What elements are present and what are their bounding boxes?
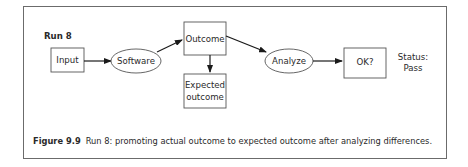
analyze-label: Analyze bbox=[272, 56, 306, 66]
run-label: Run 8 bbox=[44, 31, 72, 41]
arrow-software-to-outcome bbox=[157, 40, 182, 52]
input-label: Input bbox=[56, 55, 79, 65]
outcome-label: Outcome bbox=[185, 34, 224, 44]
expected-label-line1: Expected bbox=[185, 80, 225, 90]
figure-caption: Figure 9.9Run 8: promoting actual outcom… bbox=[33, 136, 432, 146]
arrow-outcome-to-analyze bbox=[226, 36, 266, 52]
figure-number: Figure 9.9 bbox=[33, 136, 81, 146]
expected-label-line2: outcome bbox=[186, 92, 224, 102]
ok-label: OK? bbox=[357, 57, 374, 67]
figure-caption-text: Run 8: promoting actual outcome to expec… bbox=[86, 136, 432, 146]
diagram: Run 8 Input Software Outcome Expected ou… bbox=[0, 0, 468, 167]
software-label: Software bbox=[117, 56, 155, 66]
status-label: Status: bbox=[398, 52, 428, 62]
status-value: Pass bbox=[403, 63, 423, 73]
